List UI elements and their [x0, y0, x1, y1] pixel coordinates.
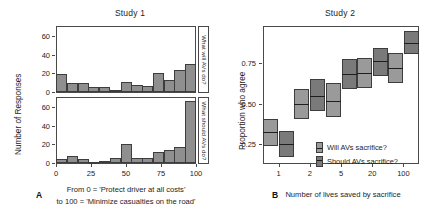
panel-a-xtick	[196, 164, 197, 167]
legend-label-should: Should AVs sacrifice?	[327, 157, 398, 166]
panel-b-ylabel-025: 0.25	[228, 140, 256, 149]
panel-a-xtick-label: 25	[76, 169, 106, 178]
legend-label-will: Will AVs sacrifice?	[327, 143, 387, 152]
panel-a-caption-line-1: From 0 = 'Protect driver at all costs'	[40, 185, 212, 194]
panel-b-ytick-025	[259, 144, 262, 145]
panel-a-bottom-strip-label: What should AVs do?	[201, 101, 207, 160]
panel-a-xtick	[126, 164, 127, 167]
panel-a-xtick	[56, 164, 57, 167]
interval-median-line	[373, 61, 388, 62]
legend-key-should-icon	[316, 156, 323, 167]
panel-a-top-ytick-40	[52, 55, 55, 56]
panel-a-xtick-label: 0	[41, 169, 71, 178]
histogram-bar	[185, 64, 196, 92]
histogram-bar	[121, 82, 132, 92]
panel-b-xtick-label: 1	[264, 169, 294, 178]
panel-a-bottom-ytick-20	[52, 144, 55, 145]
panel-b-xtick-label: 20	[357, 169, 387, 178]
histogram-bar	[153, 73, 164, 93]
panel-a-top-ylabel-20: 20	[28, 69, 50, 78]
panel-a-bottom-ylabel-60: 60	[28, 103, 50, 112]
histogram-bar	[67, 83, 78, 92]
panel-a-bottom-ylabel-40: 40	[28, 122, 50, 131]
legend-item-should: Should AVs sacrifice?	[316, 156, 398, 167]
histogram-bar	[99, 87, 110, 92]
interval-median-line	[357, 73, 372, 74]
panel-b-ytick-050	[259, 104, 262, 105]
histogram-bar	[164, 150, 175, 163]
histogram-bar	[56, 74, 67, 92]
figure-root: Study 1 Number of Responses What will AV…	[0, 0, 433, 216]
histogram-bar	[99, 161, 110, 163]
panel-a-top-ytick-20	[52, 73, 55, 74]
panel-a-top-ylabel-0: 0	[28, 88, 50, 97]
histogram-bar	[88, 87, 99, 92]
interval-median-line	[388, 68, 403, 69]
panel-b-xtick-label: 5	[326, 169, 356, 178]
panel-a-bottom-ytick-60	[52, 107, 55, 108]
histogram-bar	[56, 159, 67, 163]
panel-a-xtick-label: 50	[111, 169, 141, 178]
legend-key-will-icon	[316, 142, 323, 153]
panel-b-ylabel-075: 0.75	[228, 59, 256, 68]
panel-b-xtick-label: 2	[295, 169, 325, 178]
panel-b-title: Study 2	[280, 8, 400, 18]
interval-median-line	[279, 144, 294, 145]
legend-item-will: Will AVs sacrifice?	[316, 142, 387, 153]
panel-b-ylabel-050: 0.50	[228, 100, 256, 109]
interval-median-line	[263, 132, 278, 133]
panel-b-xtick	[403, 164, 404, 167]
interval-median-line	[294, 104, 309, 105]
panel-a-top-strip: What will AVs do?	[198, 26, 209, 93]
panel-b-x-axis-title: Number of lives saved by sacrifice	[258, 190, 428, 199]
panel-b-xtick	[279, 164, 280, 167]
panel-a-xtick-label: 75	[146, 169, 176, 178]
panel-a-xtick	[91, 164, 92, 167]
histogram-bar	[174, 147, 185, 163]
panel-b-xtick	[310, 164, 311, 167]
panel-a-bottom-ytick-40	[52, 126, 55, 127]
histogram-bar	[78, 83, 89, 92]
interval-median-line	[326, 101, 341, 102]
panel-a-top-strip-label: What will AVs do?	[201, 35, 207, 84]
panel-a-bottom-ylabel-0: 0	[28, 159, 50, 168]
histogram-bar	[88, 162, 99, 164]
panel-a-bottom-ylabel-20: 20	[28, 140, 50, 149]
histogram-bar	[153, 152, 164, 163]
panel-a-title: Study 1	[60, 8, 200, 18]
panel-a-bottom-strip: What should AVs do?	[198, 97, 209, 164]
interval-median-line	[404, 43, 419, 44]
histogram-bar	[78, 159, 89, 163]
panel-a-top-ytick-60	[52, 36, 55, 37]
histogram-bar	[142, 86, 153, 92]
panel-a-xtick	[161, 164, 162, 167]
panel-a-y-axis-title: Number of Responses	[14, 74, 23, 155]
panel-a-bottom-ytick-0	[52, 163, 55, 164]
histogram-bar	[110, 90, 121, 92]
panel-a-top-ylabel-60: 60	[28, 32, 50, 41]
histogram-bar	[67, 156, 78, 163]
panel-b-y-axis-title: Proportion who agree	[238, 72, 247, 150]
panel-a-top-ytick-0	[52, 92, 55, 93]
panel-b-ytick-075	[259, 63, 262, 64]
histogram-bar	[121, 144, 132, 164]
histogram-bar	[131, 158, 142, 163]
panel-a-top-ylabel-40: 40	[28, 51, 50, 60]
panel-a-caption-line-2: to 100 = 'Minimize casualties on the roa…	[32, 197, 220, 206]
histogram-bar	[174, 70, 185, 92]
panel-a-xtick-label: 100	[181, 169, 211, 178]
histogram-bar	[110, 158, 121, 163]
histogram-bar	[185, 101, 196, 163]
histogram-bar	[131, 85, 142, 92]
histogram-bar	[164, 80, 175, 92]
panel-b-xtick-label: 100	[388, 169, 418, 178]
histogram-bar	[142, 158, 153, 163]
interval-median-line	[342, 74, 357, 75]
interval-median-line	[310, 96, 325, 97]
